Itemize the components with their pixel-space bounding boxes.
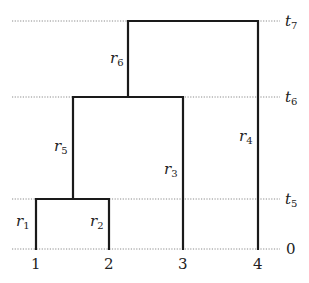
branch-label-r1: r1 — [16, 212, 30, 231]
level-label-t5: t5 — [285, 190, 297, 209]
branch-label-r4: r4 — [239, 127, 253, 146]
branch-label-r2: r2 — [90, 212, 104, 231]
level-label-t6: t6 — [285, 88, 297, 107]
dendrogram: t7 t6 t5 0 1 2 3 4 r1 r2 r3 r4 r5 r6 — [0, 0, 309, 283]
branch-label-r6: r6 — [110, 49, 124, 68]
branch-label-r5: r5 — [54, 137, 68, 156]
leaf-label-2: 2 — [104, 255, 114, 273]
leaf-label-4: 4 — [253, 255, 263, 273]
level-label-zero: 0 — [286, 240, 296, 258]
leaf-label-1: 1 — [31, 255, 41, 273]
branch-label-r3: r3 — [164, 160, 178, 179]
level-label-t7: t7 — [285, 12, 297, 31]
leaf-label-3: 3 — [178, 255, 188, 273]
